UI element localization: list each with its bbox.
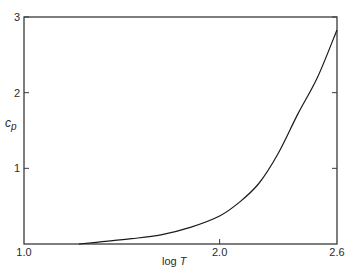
cp-curve xyxy=(79,30,337,244)
x-tick-label: 2.6 xyxy=(329,246,344,258)
y-axis-label: cp xyxy=(5,116,17,132)
x-axis-label: log T xyxy=(162,255,188,267)
chart: 123 1.02.02.6 log T cp xyxy=(0,0,358,272)
x-tick-label: 2.0 xyxy=(212,246,227,258)
x-axis-label-log: log xyxy=(162,255,177,267)
y-tick-label: 2 xyxy=(14,87,20,99)
y-axis-ticks: 123 xyxy=(14,11,337,174)
y-tick-label: 1 xyxy=(14,162,20,174)
x-axis-label-var: T xyxy=(177,255,188,267)
y-axis-label-sub: p xyxy=(10,121,17,132)
x-tick-label: 1.0 xyxy=(16,246,31,258)
y-tick-label: 3 xyxy=(14,11,20,23)
